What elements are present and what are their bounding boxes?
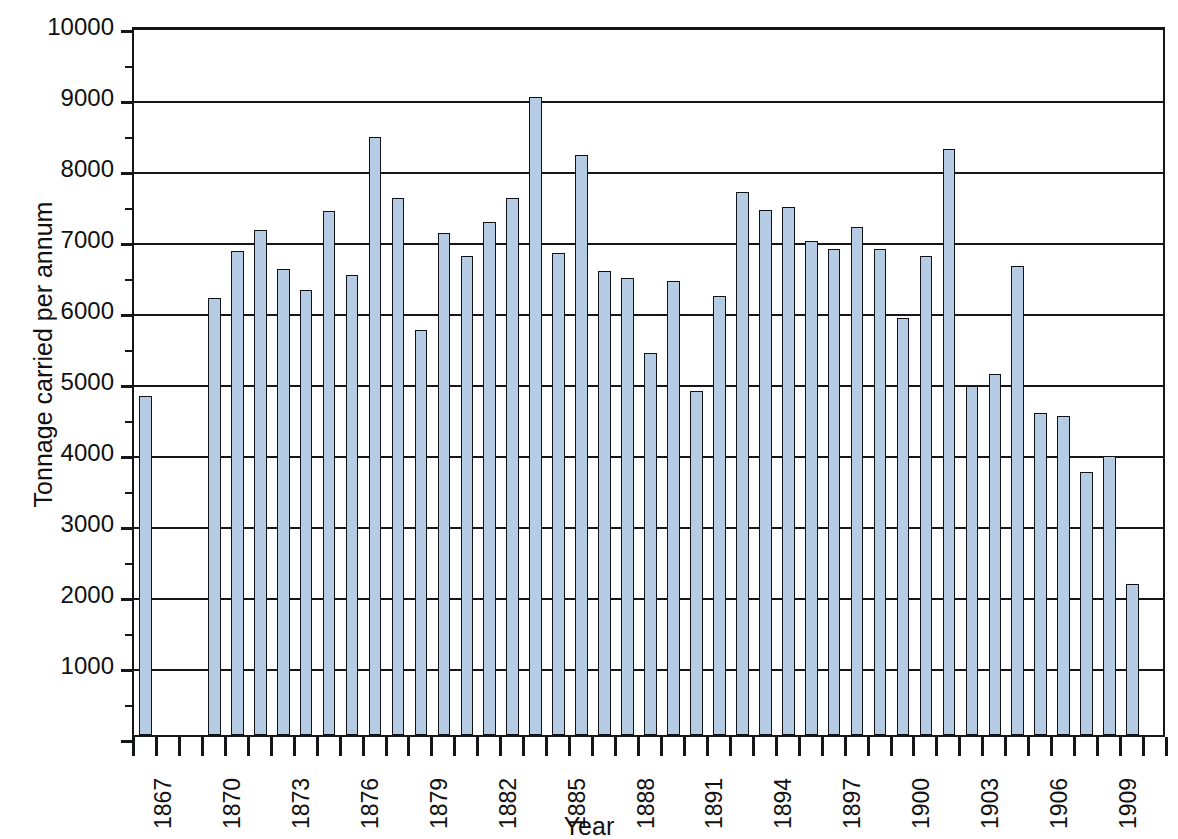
x-axis-tick xyxy=(660,737,663,756)
x-axis-tick xyxy=(247,737,250,756)
bar xyxy=(208,298,221,735)
bar xyxy=(989,374,1002,735)
y-axis-tick-label: 8000 xyxy=(61,157,114,181)
y-axis-tick xyxy=(121,30,134,33)
x-axis-tick xyxy=(844,737,847,756)
y-axis-tick-label: 4000 xyxy=(61,441,114,465)
bar xyxy=(1057,416,1070,735)
x-axis-title: Year xyxy=(0,812,1178,839)
x-axis-tick xyxy=(1027,737,1030,756)
x-axis-tick xyxy=(339,737,342,756)
x-axis-tick xyxy=(385,737,388,756)
bar xyxy=(690,391,703,735)
x-axis-tick xyxy=(637,737,640,756)
bar xyxy=(1103,456,1116,735)
y-axis-tick xyxy=(121,101,134,104)
y-axis-tick-label: 10000 xyxy=(47,15,114,39)
y-axis-minor-tick xyxy=(125,421,134,423)
x-axis-tick xyxy=(568,737,571,756)
bar xyxy=(529,97,542,735)
bar xyxy=(139,396,152,735)
x-axis-tick xyxy=(316,737,319,756)
x-axis-tick xyxy=(476,737,479,756)
x-axis-tick xyxy=(867,737,870,756)
bar xyxy=(1011,266,1024,735)
x-axis-tick xyxy=(912,737,915,756)
x-axis-tick xyxy=(1096,737,1099,756)
x-axis-tick xyxy=(1165,737,1168,756)
bar xyxy=(346,275,359,735)
y-axis-tick-label: 9000 xyxy=(61,86,114,110)
x-axis-tick xyxy=(430,737,433,756)
x-axis-tick xyxy=(499,737,502,756)
y-axis-minor-tick xyxy=(125,563,134,565)
bar xyxy=(851,227,864,735)
bar xyxy=(943,149,956,735)
bar xyxy=(300,290,313,735)
bar xyxy=(552,253,565,735)
x-axis-tick xyxy=(821,737,824,756)
bar xyxy=(920,256,933,735)
bar xyxy=(759,210,772,735)
bar xyxy=(323,211,336,735)
x-axis-tick xyxy=(178,737,181,756)
x-axis-tick xyxy=(935,737,938,756)
y-axis-minor-tick xyxy=(125,634,134,636)
y-axis-minor-tick xyxy=(125,279,134,281)
x-axis-tick xyxy=(775,737,778,756)
y-axis-tick xyxy=(121,243,134,246)
x-axis-tick xyxy=(224,737,227,756)
x-axis-tick xyxy=(683,737,686,756)
bar xyxy=(369,137,382,735)
bar xyxy=(598,271,611,735)
bar xyxy=(1126,584,1139,735)
bar xyxy=(874,249,887,735)
y-axis-minor-tick xyxy=(125,705,134,707)
bar xyxy=(644,353,657,735)
y-axis-tick-label: 1000 xyxy=(61,654,114,678)
bar xyxy=(231,251,244,735)
y-axis-tick xyxy=(121,669,134,672)
y-axis-tick-label: 5000 xyxy=(61,370,114,394)
y-axis-tick-label: 7000 xyxy=(61,228,114,252)
bar xyxy=(483,222,496,735)
bar xyxy=(713,296,726,735)
x-axis-tick xyxy=(293,737,296,756)
y-axis-minor-tick xyxy=(125,492,134,494)
bars xyxy=(134,30,1163,735)
bar xyxy=(667,281,680,735)
y-axis-tick-label: 2000 xyxy=(61,583,114,607)
x-axis-tick xyxy=(1119,737,1122,756)
x-axis-tick xyxy=(729,737,732,756)
bar xyxy=(1080,472,1093,735)
y-axis-tick xyxy=(121,385,134,388)
x-axis-tick xyxy=(798,737,801,756)
x-axis-tick xyxy=(132,737,135,756)
y-axis-tick xyxy=(121,527,134,530)
bar xyxy=(1034,413,1047,735)
x-axis-tick xyxy=(1073,737,1076,756)
y-axis-tick-label: 3000 xyxy=(61,512,114,536)
bar xyxy=(438,233,451,735)
bar xyxy=(621,278,634,735)
x-axis-tick xyxy=(201,737,204,756)
y-axis-tick xyxy=(121,456,134,459)
y-axis-tick-labels: 1000200030004000500060007000800090001000… xyxy=(0,0,122,831)
bar xyxy=(415,330,428,735)
x-axis-tick xyxy=(545,737,548,756)
bar xyxy=(897,318,910,735)
x-axis-tick xyxy=(958,737,961,756)
bar xyxy=(277,269,290,735)
y-axis-minor-tick xyxy=(125,350,134,352)
y-axis-tick-label: 6000 xyxy=(61,299,114,323)
x-axis-tick xyxy=(155,737,158,756)
bar xyxy=(254,230,267,735)
bar xyxy=(575,155,588,735)
y-axis-tick xyxy=(121,172,134,175)
bar xyxy=(461,256,474,735)
x-axis-tick xyxy=(270,737,273,756)
x-axis-tick xyxy=(890,737,893,756)
plot-area xyxy=(132,27,1165,737)
y-axis-minor-tick xyxy=(125,137,134,139)
